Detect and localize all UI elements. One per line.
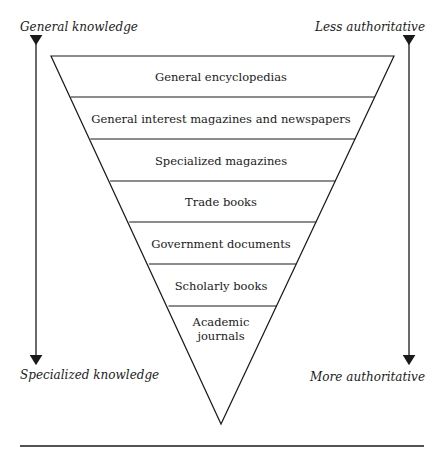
level-specialized-magazines: Specialized magazines — [101, 154, 341, 168]
level-government-documents: Government documents — [101, 237, 341, 251]
level-general-encyclopedias: General encyclopedias — [101, 70, 341, 84]
level-trade-books: Trade books — [101, 195, 341, 209]
pyramid-graphic — [0, 0, 443, 452]
level-general-interest: General interest magazines and newspaper… — [81, 112, 361, 126]
level-academic-journals: Academic journals — [101, 315, 341, 343]
right-bottom-label: More authoritative — [310, 370, 425, 384]
left-top-label: General knowledge — [20, 20, 138, 34]
right-top-label: Less authoritative — [315, 20, 425, 34]
level-scholarly-books: Scholarly books — [101, 279, 341, 293]
left-bottom-label: Specialized knowledge — [20, 368, 159, 382]
